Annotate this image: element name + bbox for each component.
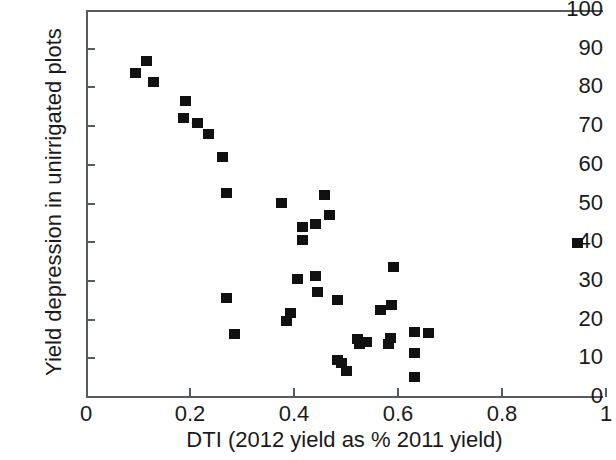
data-point xyxy=(180,96,191,106)
data-point xyxy=(409,348,420,358)
x-tick-label: 0.4 xyxy=(254,402,334,426)
data-point xyxy=(375,305,386,315)
x-tick-label: 0.2 xyxy=(150,402,230,426)
data-point xyxy=(409,327,420,337)
data-point xyxy=(192,118,203,128)
plot-frame xyxy=(86,10,603,397)
y-tick-label: 80 xyxy=(527,75,603,97)
x-tick-mark xyxy=(189,388,191,397)
y-tick-label: 100 xyxy=(527,0,603,20)
data-point xyxy=(310,271,321,281)
y-tick-label: 20 xyxy=(527,308,603,330)
data-point xyxy=(292,274,303,284)
y-tick-mark xyxy=(86,357,95,359)
y-tick-mark xyxy=(86,280,95,282)
data-point xyxy=(221,188,232,198)
x-axis-title: DTI (2012 yield as % 2011 yield) xyxy=(86,428,603,452)
x-tick-label: 0.8 xyxy=(462,402,542,426)
data-point xyxy=(297,222,308,232)
y-tick-mark xyxy=(86,164,95,166)
data-point xyxy=(332,295,343,305)
data-point xyxy=(229,329,240,339)
data-point xyxy=(141,56,152,66)
data-point xyxy=(423,328,434,338)
y-tick-label: 40 xyxy=(527,230,603,252)
data-point xyxy=(178,113,189,123)
data-point xyxy=(203,129,214,139)
y-tick-label: 70 xyxy=(527,114,603,136)
data-point xyxy=(310,219,321,229)
data-point xyxy=(312,287,323,297)
y-tick-label: 10 xyxy=(527,346,603,368)
data-point xyxy=(386,300,397,310)
y-tick-label: 30 xyxy=(527,269,603,291)
data-point xyxy=(341,366,352,376)
data-point xyxy=(361,337,372,347)
x-tick-mark xyxy=(397,388,399,397)
y-tick-mark xyxy=(86,48,95,50)
data-point xyxy=(276,198,287,208)
x-tick-mark xyxy=(501,388,503,397)
data-point xyxy=(409,372,420,382)
x-tick-mark xyxy=(293,388,295,397)
data-point xyxy=(297,235,308,245)
data-point xyxy=(385,333,396,343)
data-point xyxy=(130,68,141,78)
data-point xyxy=(572,238,583,248)
data-point xyxy=(285,308,296,318)
y-tick-mark xyxy=(86,396,95,398)
data-point xyxy=(324,210,335,220)
y-tick-mark xyxy=(86,86,95,88)
x-tick-label: 1 xyxy=(566,402,616,426)
data-point xyxy=(217,152,228,162)
x-tick-label: 0.6 xyxy=(358,402,438,426)
x-tick-mark xyxy=(605,388,607,397)
y-axis-title: Yield depression in unirrigated plots xyxy=(42,0,66,412)
data-point xyxy=(319,190,330,200)
data-point xyxy=(388,262,399,272)
data-point xyxy=(148,77,159,87)
y-tick-label: 90 xyxy=(527,37,603,59)
data-point xyxy=(221,293,232,303)
y-tick-mark xyxy=(86,203,95,205)
y-tick-label: 50 xyxy=(527,192,603,214)
y-tick-label: 60 xyxy=(527,153,603,175)
y-tick-mark xyxy=(86,241,95,243)
y-tick-mark xyxy=(86,125,95,127)
x-axis-line xyxy=(86,396,603,398)
y-tick-mark xyxy=(86,319,95,321)
